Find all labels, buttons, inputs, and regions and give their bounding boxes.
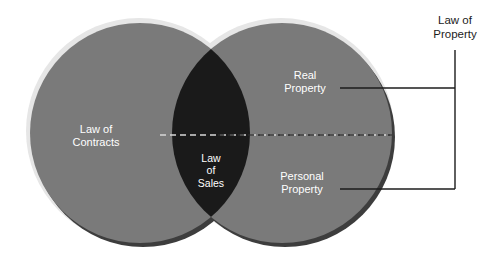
venn-diagram-canvas: Law of Contracts Law of Sales Real Prope… bbox=[0, 0, 495, 271]
venn-diagram-graphic bbox=[0, 0, 495, 271]
